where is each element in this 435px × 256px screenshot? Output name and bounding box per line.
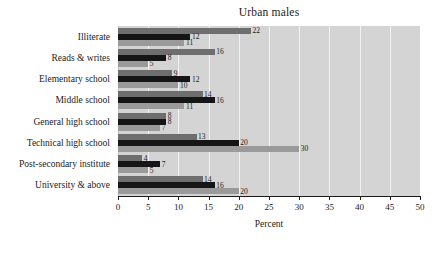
- bar-value-label: 5: [150, 60, 154, 68]
- x-tick-label-5: 5: [146, 202, 151, 212]
- chart-title: Urban males: [118, 6, 420, 18]
- bar-value-label: 16: [216, 97, 224, 105]
- bar-value-label: 30: [301, 145, 309, 153]
- bar: [118, 146, 299, 152]
- x-tick-15: [209, 196, 210, 200]
- x-tick-label-40: 40: [355, 202, 364, 212]
- bar-value-label: 10: [180, 82, 188, 90]
- bar-group: 91210: [118, 69, 420, 90]
- bar-group: 221211: [118, 26, 420, 47]
- bar: [118, 61, 148, 67]
- x-tick-20: [239, 196, 240, 200]
- x-tick-30: [299, 196, 300, 200]
- x-tick-5: [148, 196, 149, 200]
- x-tick-45: [390, 196, 391, 200]
- bar-group: 1685: [118, 47, 420, 68]
- bar: [118, 125, 160, 131]
- bar: [118, 40, 184, 46]
- bar-group: 141620: [118, 175, 420, 196]
- bar: [118, 82, 178, 88]
- chart-figure: Urban males 2212111685912101416118871320…: [0, 0, 435, 256]
- x-tick-35: [329, 196, 330, 200]
- bar: [118, 103, 184, 109]
- bar-value-label: 11: [186, 103, 193, 111]
- bar-value-label: 20: [240, 188, 248, 196]
- x-tick-label-10: 10: [174, 202, 183, 212]
- x-tick-label-45: 45: [385, 202, 394, 212]
- bar-value-label: 7: [162, 124, 166, 132]
- x-tick-label-25: 25: [265, 202, 274, 212]
- category-label: Technical high school: [27, 138, 110, 148]
- bar-group: 887: [118, 111, 420, 132]
- category-axis-labels: IlliterateReads & writesElementary schoo…: [0, 26, 114, 196]
- x-tick-0: [118, 196, 119, 200]
- bar-value-label: 22: [252, 27, 260, 35]
- x-tick-label-20: 20: [234, 202, 243, 212]
- bar-value-label: 16: [216, 48, 224, 56]
- x-tick-25: [269, 196, 270, 200]
- bar-value-label: 12: [192, 76, 200, 84]
- x-tick-label-50: 50: [416, 202, 425, 212]
- x-tick-label-30: 30: [295, 202, 304, 212]
- bar-group: 132030: [118, 132, 420, 153]
- x-tick-label-35: 35: [325, 202, 334, 212]
- x-tick-label-0: 0: [116, 202, 121, 212]
- bar-value-label: 7: [162, 161, 166, 169]
- bar-value-label: 8: [168, 118, 172, 126]
- x-tick-10: [178, 196, 179, 200]
- x-tick-40: [360, 196, 361, 200]
- bars-layer: 221211168591210141611887132030475141620: [118, 26, 420, 196]
- x-axis: 05101520253035404550: [118, 196, 420, 197]
- category-label: Illiterate: [78, 32, 110, 42]
- bar: [118, 167, 148, 173]
- plot-area: 221211168591210141611887132030475141620: [118, 26, 420, 196]
- category-label: Reads & writes: [51, 53, 110, 63]
- category-label: University & above: [35, 180, 110, 190]
- bar-group: 141611: [118, 90, 420, 111]
- x-tick-label-15: 15: [204, 202, 213, 212]
- bar-group: 475: [118, 154, 420, 175]
- category-label: Elementary school: [39, 74, 110, 84]
- category-label: General high school: [33, 117, 110, 127]
- bar-value-label: 5: [150, 167, 154, 175]
- bar: [118, 188, 239, 194]
- bar-value-label: 11: [186, 39, 193, 47]
- x-axis-title: Percent: [118, 219, 420, 229]
- x-tick-50: [420, 196, 421, 200]
- category-label: Middle school: [55, 95, 110, 105]
- category-label: Post-secondary institute: [19, 159, 110, 169]
- bar-value-label: 8: [168, 54, 172, 62]
